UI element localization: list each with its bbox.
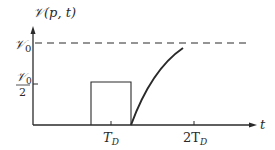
y-axis-label: 𝒱(p, t) [33,5,76,20]
v0-half-denominator: 2 [19,86,26,99]
waveform-diagram: 𝒱(p, t) 𝒱0 𝒱0 2 TD 2TD t [0,0,275,150]
y-axis-arrow-icon [31,26,36,34]
v0-label: 𝒱0 [14,37,31,54]
2td-label: 2TD [183,130,207,147]
td-label: TD [103,130,119,147]
pulse-rectangle [91,82,131,125]
charging-curve [131,48,183,125]
x-axis-arrow-icon [249,123,257,128]
x-axis-label: t [260,117,266,132]
v0-half-numerator: 𝒱0 [16,70,32,86]
